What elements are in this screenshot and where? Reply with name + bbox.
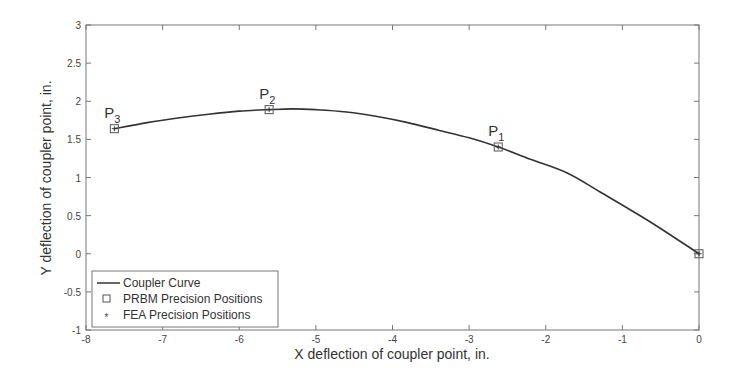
x-tick-label: -8 [82,334,91,345]
y-tick-label: 0.5 [67,211,81,222]
y-tick-label: 0 [75,249,81,260]
point-labels: P1P2P3 [104,85,504,143]
x-tick-label: -5 [311,334,320,345]
precision-markers [110,106,703,258]
x-tick-label: -6 [235,334,244,345]
x-tick-label: -4 [388,334,397,345]
y-tick-label: 2.5 [67,58,81,69]
y-tick-label: -0.5 [64,287,82,298]
x-tick-label: 0 [696,334,702,345]
coupler-curve-chart: -8-7-6-5-4-3-2-10-1-0.500.511.522.53 P1P… [0,0,733,382]
x-tick-label: -3 [465,334,474,345]
legend-item-coupler-curve: Coupler Curve [123,276,201,290]
legend-item-fea: FEA Precision Positions [123,308,250,322]
y-tick-label: 1.5 [67,134,81,145]
y-tick-label: -1 [72,325,81,336]
x-axis-label: X deflection of coupler point, in. [294,346,489,362]
x-tick-label: -7 [158,334,167,345]
coupler-curve [114,109,699,254]
fea-asterisk-marker [112,126,117,131]
point-label-p2: P2 [259,85,275,106]
y-tick-label: 3 [75,20,81,31]
legend-asterisk-icon: * [105,312,109,323]
fea-asterisk-marker [267,107,272,112]
y-tick-label: 1 [75,173,81,184]
point-label-p1: P1 [488,122,504,143]
x-tick-label: -2 [541,334,550,345]
x-tick-label: -1 [618,334,627,345]
fea-asterisk-marker [496,145,501,150]
y-tick-label: 2 [75,96,81,107]
point-label-p3: P3 [104,104,120,125]
y-axis-label: Y deflection of coupler point, in. [38,80,54,275]
legend-item-prbm: PRBM Precision Positions [123,292,262,306]
legend: Coupler Curve PRBM Precision Positions *… [92,271,278,327]
